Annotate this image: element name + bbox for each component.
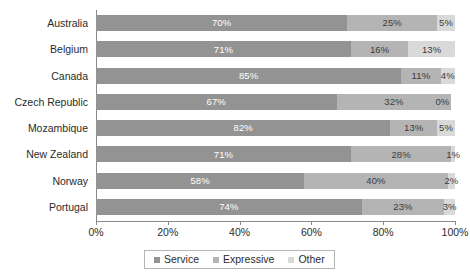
bar-segment-value-label: 2% (444, 176, 458, 186)
x-axis-tick-mark (311, 221, 312, 225)
bar-segment-other: 5% (437, 120, 455, 136)
bar-segment-value-label: 25% (383, 18, 402, 28)
bar-segment-value-label: 71% (214, 45, 233, 55)
chart-legend: ServiceExpressiveOther (144, 250, 335, 269)
bar-segment-value-label: 4% (441, 71, 455, 81)
bar-segment-value-label: 82% (234, 123, 253, 133)
x-axis-tick-label: 80% (358, 227, 408, 238)
legend-item-service[interactable]: Service (154, 254, 199, 265)
legend-label: Other (298, 254, 324, 265)
bar-segment-expressive: 23% (362, 199, 445, 215)
bar-segment-other: 13% (408, 41, 455, 57)
bar-row: 58%40%2% (96, 173, 455, 189)
bar-segment-value-label: 67% (207, 97, 226, 107)
bar-segment-value-label: 28% (391, 150, 410, 160)
legend-item-expressive[interactable]: Expressive (213, 254, 274, 265)
bar-segment-value-label: 58% (190, 176, 209, 186)
bar-segment-other: 5% (437, 15, 455, 31)
bar-segment-other: 2% (448, 173, 455, 189)
y-axis-label-norway: Norway (0, 176, 88, 187)
legend-label: Service (164, 254, 199, 265)
y-axis-label-belgium: Belgium (0, 44, 88, 55)
bar-segment-value-label: 16% (370, 45, 389, 55)
bar-segment-service: 71% (96, 41, 351, 57)
bar-segment-expressive: 32% (337, 94, 452, 110)
bar-row: 82%13%5% (96, 120, 455, 136)
x-axis-tick-mark (168, 221, 169, 225)
stacked-bar-chart: AustraliaBelgiumCanadaCzech RepublicMoza… (0, 0, 470, 275)
bar-segment-value-label: 0% (435, 97, 449, 107)
bar-segment-service: 82% (96, 120, 390, 136)
x-axis-tick-label: 0% (71, 227, 121, 238)
x-axis-tick-mark (240, 221, 241, 225)
bar-segment-other: 3% (444, 199, 455, 215)
y-axis-label-czech-republic: Czech Republic (0, 97, 88, 108)
bar-row: 70%25%5% (96, 15, 455, 31)
x-axis-tick-label: 60% (286, 227, 336, 238)
bar-segment-value-label: 5% (439, 18, 453, 28)
bar-segment-value-label: 74% (219, 202, 238, 212)
bar-segment-value-label: 70% (212, 18, 231, 28)
x-axis-tick-mark (383, 221, 384, 225)
legend-item-other[interactable]: Other (288, 254, 324, 265)
bar-segment-value-label: 5% (439, 123, 453, 133)
x-axis-tick-label: 40% (215, 227, 265, 238)
bar-segment-expressive: 11% (401, 68, 440, 84)
bar-segment-value-label: 1% (446, 150, 460, 160)
plot-area: 70%25%5%71%16%13%85%11%4%67%32%0%82%13%5… (96, 10, 455, 220)
x-axis-tick-mark (455, 221, 456, 225)
legend-swatch-service-icon (154, 257, 160, 263)
x-axis-tick-label: 20% (143, 227, 193, 238)
bar-row: 71%28%1% (96, 146, 455, 162)
bar-segment-value-label: 3% (443, 202, 457, 212)
bar-segment-expressive: 40% (304, 173, 448, 189)
legend-swatch-other-icon (288, 257, 294, 263)
bar-segment-service: 67% (96, 94, 337, 110)
bar-row: 71%16%13% (96, 41, 455, 57)
x-axis-line (96, 221, 456, 222)
x-axis-tick-mark (96, 221, 97, 225)
y-axis-label-australia: Australia (0, 18, 88, 29)
bar-segment-expressive: 13% (390, 120, 437, 136)
bar-segment-value-label: 11% (412, 71, 431, 81)
bar-row: 85%11%4% (96, 68, 455, 84)
bar-segment-other: 1% (451, 146, 455, 162)
y-axis-label-portugal: Portugal (0, 202, 88, 213)
bar-segment-service: 71% (96, 146, 351, 162)
bar-row: 74%23%3% (96, 199, 455, 215)
bar-segment-value-label: 40% (366, 176, 385, 186)
bar-segment-other: 4% (441, 68, 455, 84)
y-axis-label-canada: Canada (0, 71, 88, 82)
legend-label: Expressive (223, 254, 274, 265)
bar-segment-value-label: 23% (393, 202, 412, 212)
bar-segment-value-label: 13% (404, 123, 423, 133)
bar-segment-value-label: 71% (214, 150, 233, 160)
bar-row: 67%32%0% (96, 94, 455, 110)
bar-segment-expressive: 25% (347, 15, 437, 31)
y-axis-label-mozambique: Mozambique (0, 123, 88, 134)
bar-segment-service: 85% (96, 68, 401, 84)
bar-segment-service: 58% (96, 173, 304, 189)
x-axis-tick-label: 100% (430, 227, 470, 238)
legend-swatch-expressive-icon (213, 257, 219, 263)
bar-segment-service: 74% (96, 199, 362, 215)
bar-segment-expressive: 16% (351, 41, 408, 57)
y-axis-label-new-zealand: New Zealand (0, 149, 88, 160)
bar-segment-value-label: 32% (384, 97, 403, 107)
bar-segment-value-label: 13% (422, 45, 441, 55)
bar-segment-value-label: 85% (239, 71, 258, 81)
bar-segment-service: 70% (96, 15, 347, 31)
bar-segment-expressive: 28% (351, 146, 452, 162)
